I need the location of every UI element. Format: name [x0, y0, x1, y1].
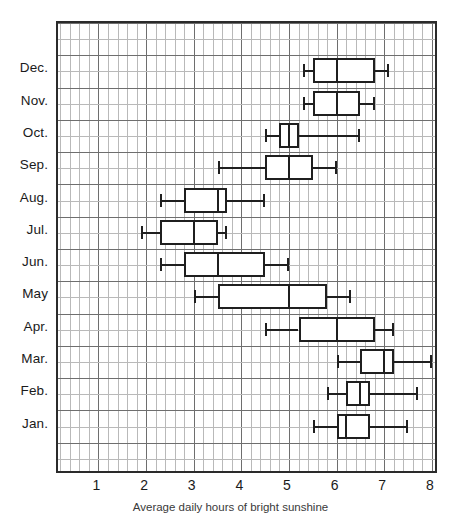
x-axis-tick-label: 6 — [320, 477, 350, 493]
y-axis-label: Jul. — [0, 222, 48, 237]
x-axis-tick-label: 3 — [177, 477, 207, 493]
y-axis-label: Jun. — [0, 254, 48, 269]
x-axis-tick-label: 5 — [272, 477, 302, 493]
y-axis-label: Oct. — [0, 125, 48, 140]
x-axis-tick-label: 2 — [129, 477, 159, 493]
x-axis-tick-label: 4 — [224, 477, 254, 493]
x-axis-tick-label: 1 — [81, 477, 111, 493]
y-axis-label: Apr. — [0, 319, 48, 334]
y-axis-label: Sep. — [0, 157, 48, 172]
y-axis-label: Mar. — [0, 351, 48, 366]
y-axis-label: May — [0, 286, 48, 301]
figure-caption: Average daily hours of bright sunshine — [0, 501, 461, 513]
y-axis-label: Nov. — [0, 93, 48, 108]
x-axis-tick-label: 7 — [367, 477, 397, 493]
x-axis-labels: 12345678 — [0, 477, 461, 499]
y-axis-label: Feb. — [0, 383, 48, 398]
y-axis-labels: Dec.Nov.Oct.Sep.Aug.Jul.Jun.MayApr.Mar.F… — [0, 21, 461, 473]
x-axis-tick-label: 8 — [415, 477, 445, 493]
y-axis-label: Aug. — [0, 190, 48, 205]
y-axis-label: Jan. — [0, 416, 48, 431]
y-axis-label: Dec. — [0, 60, 48, 75]
